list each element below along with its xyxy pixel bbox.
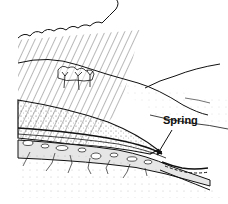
diagram-illustration: [0, 0, 228, 204]
spring-diagram: Spring: [0, 0, 228, 204]
far-hill: [145, 64, 220, 88]
cloud: [18, 0, 118, 38]
spring-label: Spring: [163, 114, 198, 126]
spring-arrow-icon: [157, 130, 172, 155]
